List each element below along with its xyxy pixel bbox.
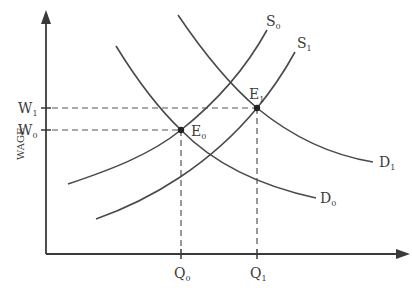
- s0-label: S0: [266, 13, 281, 31]
- w1-label: W1: [18, 100, 37, 118]
- curves: [68, 15, 373, 219]
- demand-curve-d1: [178, 15, 373, 162]
- e0-label: E0: [191, 123, 206, 141]
- q1-label: Q1: [250, 265, 267, 283]
- guide-lines: [52, 108, 257, 248]
- q0-label: Q0: [174, 265, 191, 283]
- equilibrium-point-e0: [178, 127, 184, 133]
- d1-label: D1: [379, 154, 395, 172]
- d0-label: D0: [320, 190, 336, 208]
- x-axis-arrow-icon: [396, 249, 410, 259]
- e1-label: E1: [249, 86, 264, 104]
- w0-label: W0: [18, 122, 37, 140]
- supply-curve-s0: [68, 30, 267, 184]
- equilibrium-point-e1: [254, 105, 260, 111]
- y-axis-arrow-icon: [41, 10, 51, 24]
- axes: [41, 10, 410, 259]
- s1-label: S1: [297, 35, 312, 53]
- labor-market-diagram: WAGE W1 W0 Q0 Q1 S0 S1 D0 D1 E0 E1: [0, 0, 412, 295]
